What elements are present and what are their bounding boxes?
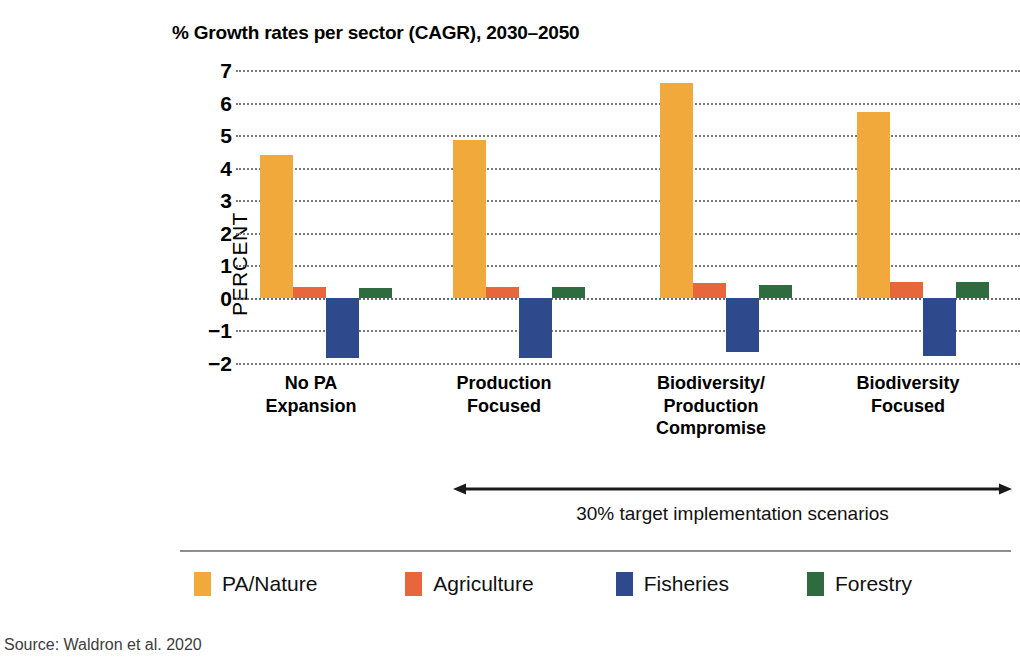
bar-no-pa-expansion-agriculture[interactable] xyxy=(293,287,326,298)
legend-item-agriculture[interactable]: Agriculture xyxy=(405,572,533,596)
bar-no-pa-expansion-pa-nature[interactable] xyxy=(260,155,293,298)
legend-swatch-forestry-icon xyxy=(807,572,824,596)
bar-biodiversity-focused-agriculture[interactable] xyxy=(890,282,923,298)
bar-biodiversity-focused-fisheries[interactable] xyxy=(923,298,956,357)
x-label-line: Production xyxy=(596,395,826,418)
gridline-neg2 xyxy=(236,363,1020,365)
y-tick-2: 2 xyxy=(192,222,232,243)
y-tick-1: 1 xyxy=(192,255,232,276)
bar-no-pa-expansion-fisheries[interactable] xyxy=(326,298,359,358)
chart-legend: PA/Nature Agriculture Fisheries Forestry xyxy=(180,572,1011,596)
y-tick-0: 0 xyxy=(192,287,232,308)
plot-area xyxy=(236,70,1020,363)
gridline-2 xyxy=(236,233,1020,235)
y-tick-neg1: −1 xyxy=(192,320,232,341)
gridline-1 xyxy=(236,265,1020,267)
y-tick-neg2: −2 xyxy=(192,353,232,374)
scenario-span-arrow-icon xyxy=(453,482,1012,496)
x-label-line: Biodiversity xyxy=(793,372,1020,395)
source-note: Source: Waldron et al. 2020 xyxy=(4,636,202,654)
legend-label-forestry: Forestry xyxy=(835,572,912,596)
bar-production-focused-fisheries[interactable] xyxy=(519,298,552,358)
bar-production-focused-agriculture[interactable] xyxy=(486,287,519,298)
bar-biodiversity-production-compromise-agriculture[interactable] xyxy=(693,283,726,298)
bar-biodiversity-production-compromise-pa-nature[interactable] xyxy=(660,83,693,298)
x-label-line: Focused xyxy=(793,395,1020,418)
x-label-production-focused: Production Focused xyxy=(389,372,619,417)
x-label-line: Production xyxy=(389,372,619,395)
bar-production-focused-forestry[interactable] xyxy=(552,287,585,298)
gridline-3 xyxy=(236,200,1020,202)
gridline-4 xyxy=(236,168,1020,170)
bar-biodiversity-focused-forestry[interactable] xyxy=(956,282,989,298)
legend-swatch-pa-nature-icon xyxy=(194,572,211,596)
bar-production-focused-pa-nature[interactable] xyxy=(453,140,486,298)
legend-item-fisheries[interactable]: Fisheries xyxy=(616,572,729,596)
x-label-biodiversity-production-compromise: Biodiversity/ Production Compromise xyxy=(596,372,826,440)
bar-biodiversity-production-compromise-forestry[interactable] xyxy=(759,285,792,298)
x-label-line: Biodiversity/ xyxy=(596,372,826,395)
legend-label-agriculture: Agriculture xyxy=(433,572,533,596)
y-tick-4: 4 xyxy=(192,157,232,178)
y-tick-5: 5 xyxy=(192,125,232,146)
legend-item-pa-nature[interactable]: PA/Nature xyxy=(194,572,317,596)
x-label-line: Focused xyxy=(389,395,619,418)
legend-swatch-fisheries-icon xyxy=(616,572,633,596)
legend-item-forestry[interactable]: Forestry xyxy=(807,572,912,596)
gridline-5 xyxy=(236,135,1020,137)
legend-label-fisheries: Fisheries xyxy=(644,572,729,596)
bar-biodiversity-focused-pa-nature[interactable] xyxy=(857,112,890,298)
legend-divider xyxy=(180,550,1011,552)
scenario-span-caption: 30% target implementation scenarios xyxy=(453,503,1012,525)
x-label-line: Compromise xyxy=(596,417,826,440)
y-tick-6: 6 xyxy=(192,92,232,113)
bar-no-pa-expansion-forestry[interactable] xyxy=(359,288,392,298)
gridline-6 xyxy=(236,103,1020,105)
y-tick-7: 7 xyxy=(192,60,232,81)
y-axis: PERCENT 7 6 5 4 3 2 1 0 −1 −2 xyxy=(190,70,232,363)
gridline-7 xyxy=(236,70,1020,72)
chart-title: % Growth rates per sector (CAGR), 2030–2… xyxy=(172,22,579,44)
x-label-biodiversity-focused: Biodiversity Focused xyxy=(793,372,1020,417)
legend-label-pa-nature: PA/Nature xyxy=(222,572,317,596)
y-tick-3: 3 xyxy=(192,190,232,211)
legend-swatch-agriculture-icon xyxy=(405,572,422,596)
bar-biodiversity-production-compromise-fisheries[interactable] xyxy=(726,298,759,352)
